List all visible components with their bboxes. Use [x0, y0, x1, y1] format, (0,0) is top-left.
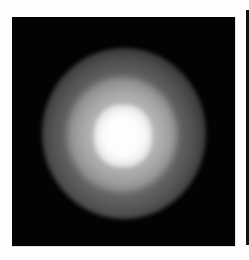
page-canvas: [0, 0, 249, 260]
edge-rule: [246, 10, 249, 245]
image-frame: [12, 17, 236, 247]
glow-core: [94, 105, 152, 167]
